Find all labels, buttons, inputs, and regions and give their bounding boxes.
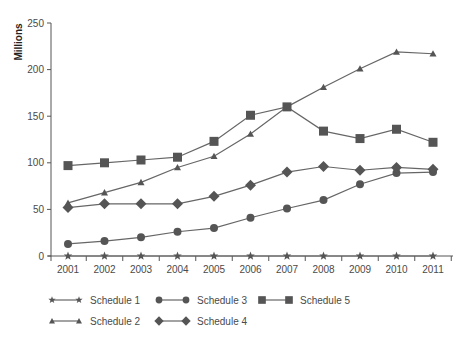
data-point-diamond-icon	[63, 202, 74, 213]
diamond-marker-icon	[181, 316, 190, 325]
legend: Schedule 1Schedule 2Schedule 3Schedule 4…	[48, 295, 350, 327]
x-tick-label: 2002	[93, 264, 116, 275]
chart-canvas: Millions 050100150200250 200120022003200…	[0, 0, 472, 342]
data-point-star-icon	[429, 252, 438, 260]
data-point-square-icon	[173, 153, 182, 162]
data-point-triangle-icon	[357, 65, 364, 71]
data-point-square-icon	[137, 156, 146, 165]
data-point-triangle-icon	[211, 153, 218, 159]
data-point-circle-icon	[137, 233, 145, 241]
data-point-star-icon	[173, 252, 182, 260]
axes	[48, 23, 453, 261]
data-point-diamond-icon	[209, 191, 220, 202]
legend-label: Schedule 3	[197, 295, 247, 306]
y-tick-label: 250	[27, 18, 44, 29]
series-schedule-4	[63, 161, 439, 213]
data-point-star-icon	[210, 252, 219, 260]
legend-item: Schedule 5	[258, 295, 350, 306]
y-tick-label: 150	[27, 111, 44, 122]
data-point-circle-icon	[320, 196, 328, 204]
data-point-circle-icon	[356, 180, 364, 188]
data-point-diamond-icon	[318, 161, 329, 172]
series-group	[63, 48, 439, 259]
data-point-diamond-icon	[245, 180, 256, 191]
data-point-square-icon	[283, 102, 292, 111]
data-point-diamond-icon	[282, 167, 293, 178]
data-point-circle-icon	[101, 237, 109, 245]
x-tick-label: 2009	[349, 264, 372, 275]
line-chart: Millions 050100150200250 200120022003200…	[0, 0, 472, 342]
data-point-square-icon	[100, 158, 109, 167]
data-point-square-icon	[64, 161, 73, 170]
circle-marker-icon	[156, 297, 163, 304]
circle-marker-icon	[183, 297, 190, 304]
x-axis-ticks: 2001200220032004200520062007200820092010…	[57, 256, 451, 275]
data-point-diamond-icon	[99, 198, 110, 209]
y-axis-ticks: 050100150200250	[27, 18, 51, 262]
data-point-triangle-icon	[320, 84, 327, 90]
data-point-circle-icon	[174, 228, 182, 236]
legend-label: Schedule 5	[300, 295, 350, 306]
legend-item: Schedule 4	[154, 316, 247, 327]
legend-item: Schedule 1	[48, 295, 140, 306]
x-tick-label: 2006	[239, 264, 262, 275]
x-tick-label: 2003	[130, 264, 153, 275]
data-point-diamond-icon	[172, 198, 183, 209]
data-point-star-icon	[137, 252, 146, 260]
y-tick-label: 200	[27, 64, 44, 75]
x-tick-label: 2001	[57, 264, 80, 275]
y-tick-label: 50	[33, 204, 45, 215]
data-point-square-icon	[210, 137, 219, 146]
star-marker-icon	[48, 296, 55, 303]
data-point-circle-icon	[64, 240, 72, 248]
data-point-square-icon	[319, 127, 328, 136]
data-point-star-icon	[246, 252, 255, 260]
y-tick-label: 100	[27, 157, 44, 168]
y-axis-title: Millions	[13, 23, 24, 61]
series-schedule-1	[64, 252, 438, 260]
data-point-square-icon	[246, 111, 255, 120]
data-point-star-icon	[64, 252, 73, 260]
data-point-star-icon	[356, 252, 365, 260]
square-marker-icon	[258, 296, 266, 304]
data-point-diamond-icon	[136, 198, 147, 209]
data-point-diamond-icon	[391, 162, 402, 173]
data-point-star-icon	[319, 252, 328, 260]
legend-item: Schedule 2	[49, 316, 140, 327]
data-point-diamond-icon	[355, 165, 366, 176]
x-tick-label: 2007	[276, 264, 299, 275]
legend-label: Schedule 4	[197, 316, 247, 327]
x-tick-label: 2004	[166, 264, 189, 275]
legend-item: Schedule 3	[156, 295, 248, 306]
square-marker-icon	[285, 296, 293, 304]
x-tick-label: 2008	[312, 264, 335, 275]
x-tick-label: 2010	[385, 264, 408, 275]
y-axis-title-text: Millions	[13, 23, 24, 61]
data-point-star-icon	[283, 252, 292, 260]
x-tick-label: 2005	[203, 264, 226, 275]
data-point-triangle-icon	[138, 179, 145, 185]
data-point-circle-icon	[210, 224, 218, 232]
data-point-star-icon	[100, 252, 109, 260]
x-tick-label: 2011	[422, 264, 444, 275]
legend-label: Schedule 2	[90, 316, 140, 327]
data-point-star-icon	[392, 252, 401, 260]
diamond-marker-icon	[154, 316, 163, 325]
y-tick-label: 0	[38, 251, 44, 262]
data-point-square-icon	[392, 125, 401, 134]
legend-label: Schedule 1	[90, 295, 140, 306]
data-point-square-icon	[429, 138, 438, 147]
data-point-square-icon	[356, 134, 365, 143]
data-point-circle-icon	[247, 214, 255, 222]
data-point-circle-icon	[283, 204, 291, 212]
star-marker-icon	[75, 296, 82, 303]
